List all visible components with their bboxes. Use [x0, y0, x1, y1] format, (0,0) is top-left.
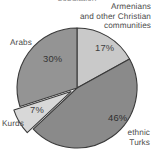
label-kurds: Kurds	[2, 119, 42, 129]
chart-canvas: Armenians and other Christian communitie…	[0, 0, 154, 160]
label-armenians-christian: Armenians and other Christian communitie…	[41, 2, 151, 31]
label-arabs: Arabs	[10, 38, 50, 48]
pie-chart-figure: population Armenians and other Christian…	[0, 0, 154, 160]
value-label-ethnic-turks: 46%	[108, 112, 127, 123]
value-label-kurds: 7%	[30, 104, 44, 115]
value-label-arabs: 30%	[43, 53, 62, 64]
value-label-armenians-christian: 17%	[95, 42, 114, 53]
label-ethnic-turks: ethnic Turks	[100, 128, 150, 147]
